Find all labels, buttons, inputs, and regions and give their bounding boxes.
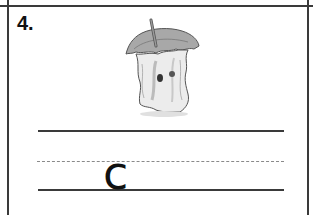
writing-line-top <box>38 130 284 132</box>
starter-letter: c <box>103 150 128 196</box>
frame-right-border <box>307 0 309 215</box>
item-number: 4. <box>17 12 34 34</box>
writing-line-baseline <box>38 189 284 191</box>
frame-left-border <box>7 0 9 215</box>
apple-core-icon <box>122 16 202 118</box>
frame-top-border <box>0 5 313 7</box>
writing-line-midline <box>37 161 284 162</box>
